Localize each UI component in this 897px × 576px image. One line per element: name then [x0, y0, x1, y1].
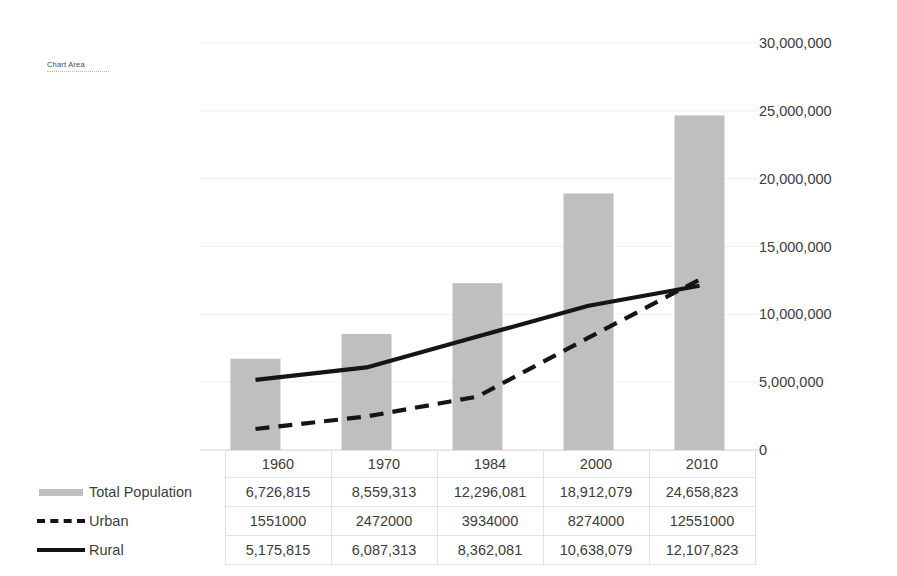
y-axis-tick-label: 0: [759, 442, 767, 458]
table-header-row: 19601970198420002010: [33, 451, 755, 478]
chart-screenshot: Chart Area 05,000,00010,000,00015,000,00…: [0, 0, 897, 576]
table-value-cell: 12551000: [649, 507, 755, 536]
table-value-cell: 18,912,079: [543, 478, 649, 507]
y-axis-tick-label: 30,000,000: [759, 35, 832, 51]
table-value-cell: 8,362,081: [437, 536, 543, 565]
table-row: Urban15510002472000393400082740001255100…: [33, 507, 755, 536]
legend-solid-line-icon: [33, 543, 89, 557]
bar: [342, 334, 392, 450]
table-value-cell: 6,087,313: [331, 536, 437, 565]
table-value-cell: 12,107,823: [649, 536, 755, 565]
table-row: Total Population6,726,8158,559,31312,296…: [33, 478, 755, 507]
table-series-label: Urban: [89, 513, 129, 529]
table-value-cell: 8,559,313: [331, 478, 437, 507]
table-row: Rural5,175,8156,087,3138,362,08110,638,0…: [33, 536, 755, 565]
table-value-cell: 2472000: [331, 507, 437, 536]
y-axis-tick-label: 20,000,000: [759, 171, 832, 187]
y-axis-tick-label: 15,000,000: [759, 239, 832, 255]
table-corner-cell: [33, 451, 225, 478]
table-series-label: Rural: [89, 542, 124, 558]
bar: [231, 359, 281, 450]
table-series-label: Total Population: [89, 484, 192, 500]
bar-series-total-population: [231, 115, 725, 450]
bar: [453, 283, 503, 450]
table-value-cell: 10,638,079: [543, 536, 649, 565]
table-year-header: 2010: [649, 451, 755, 478]
table-value-cell: 24,658,823: [649, 478, 755, 507]
table-year-header: 1970: [331, 451, 437, 478]
chart-data-table: 19601970198420002010Total Population6,72…: [33, 450, 756, 565]
table-year-header: 1960: [225, 451, 331, 478]
y-axis-labels: 05,000,00010,000,00015,000,00020,000,000…: [759, 0, 897, 470]
table-year-header: 2000: [543, 451, 649, 478]
bar: [675, 115, 725, 450]
table-series-label-cell: Rural: [33, 536, 225, 565]
legend-dashed-line-icon: [33, 514, 89, 528]
table-value-cell: 1551000: [225, 507, 331, 536]
table-value-cell: 3934000: [437, 507, 543, 536]
y-axis-tick-label: 25,000,000: [759, 103, 832, 119]
y-axis-tick-label: 5,000,000: [759, 374, 824, 390]
table-year-header: 1984: [437, 451, 543, 478]
table-value-cell: 6,726,815: [225, 478, 331, 507]
table-series-label-cell: Urban: [33, 507, 225, 536]
table-value-cell: 8274000: [543, 507, 649, 536]
table-series-label-cell: Total Population: [33, 478, 225, 507]
table-value-cell: 12,296,081: [437, 478, 543, 507]
table-value-cell: 5,175,815: [225, 536, 331, 565]
y-axis-tick-label: 10,000,000: [759, 306, 832, 322]
legend-swatch-icon: [33, 485, 89, 499]
bar: [564, 193, 614, 450]
